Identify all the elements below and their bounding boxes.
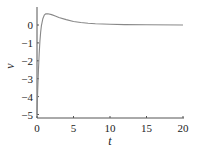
- data-line: [37, 14, 183, 115]
- y-tick-label: −2: [21, 55, 33, 67]
- x-axis-label: t: [108, 134, 112, 148]
- y-tick-label: −1: [21, 37, 33, 49]
- y-ticks: 0−1−2−3−4−5: [21, 19, 39, 121]
- x-tick-label: 0: [34, 122, 40, 134]
- y-tick-label: −5: [21, 109, 33, 121]
- y-tick-label: −3: [21, 73, 33, 85]
- y-axis-label: v: [3, 63, 17, 69]
- x-tick-label: 5: [71, 122, 77, 134]
- x-ticks: 05101520: [34, 116, 189, 134]
- x-tick-label: 10: [105, 122, 117, 134]
- y-tick-label: 0: [28, 19, 34, 31]
- x-tick-label: 15: [141, 122, 153, 134]
- chart: 05101520 0−1−2−3−4−5 t v: [0, 0, 199, 156]
- x-tick-label: 20: [178, 122, 190, 134]
- y-tick-label: −4: [21, 91, 33, 103]
